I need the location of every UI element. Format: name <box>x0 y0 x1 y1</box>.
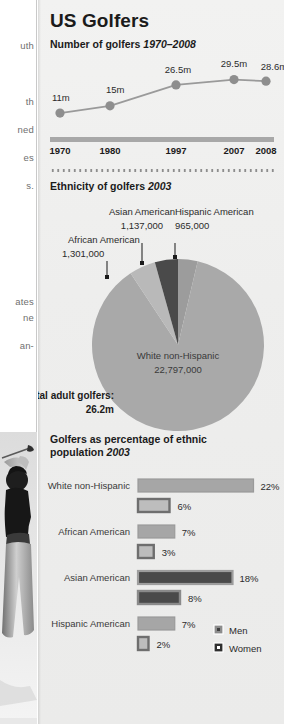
bar-category-label-african-american: African American <box>58 526 130 537</box>
line-chart-heading-bold: Number of golfers <box>50 38 140 50</box>
bar-men-value-hispanic-american: 7% <box>182 619 196 630</box>
golfer-swing-photo <box>0 432 37 724</box>
line-chart-heading-period: 1970–2008 <box>143 38 196 50</box>
bar-women-value-hispanic-american: 2% <box>157 639 171 650</box>
line-chart-svg: 11m15m26.5m29.5m28.6m 197019801997200720… <box>38 53 284 165</box>
line-chart-points <box>55 75 270 118</box>
bar-women-value-african-american: 3% <box>162 547 176 558</box>
line-chart-axis-bar <box>50 137 274 142</box>
bar-men-hispanic-american <box>138 617 175 630</box>
line-value-label-2007: 29.5m <box>221 58 247 69</box>
line-x-label-1970: 1970 <box>49 145 70 156</box>
bar-category-label-asian-american: Asian American <box>64 572 130 583</box>
line-chart-heading: Number of golfers 1970–2008 <box>38 32 284 51</box>
bar-category-label-white-non-hispanic: White non-Hispanic <box>48 480 131 491</box>
legend-swatch-inner-women <box>217 646 220 649</box>
pie-chart: Asian American 1,137,000 Hispanic Americ… <box>38 193 284 431</box>
bar-women-value-white-non-hispanic: 6% <box>178 501 192 512</box>
margin-text-fragment: ned <box>18 124 34 135</box>
margin-text-fragment: ne <box>23 312 34 323</box>
line-value-label-2008: 28.6m <box>261 61 284 72</box>
line-point-1997 <box>171 80 180 89</box>
bar-men-value-african-american: 7% <box>182 527 196 538</box>
leader-dot-asian <box>140 261 144 265</box>
bar-chart-svg: White non-Hispanic22%6%African American7… <box>38 459 284 667</box>
bar-women-hispanic-american <box>138 637 149 650</box>
line-chart-x-axis-labels: 19701980199720072008 <box>49 145 276 156</box>
margin-text-fragment: an- <box>20 340 34 351</box>
legend-swatch-inner-men <box>217 628 220 631</box>
line-value-label-1980: 15m <box>106 84 125 95</box>
line-chart-series <box>60 80 266 114</box>
bar-men-african-american <box>138 525 175 538</box>
margin-text-fragment: es <box>24 152 34 163</box>
margin-text-fragment: ates <box>15 296 34 307</box>
pie-label-asian-american: Asian American <box>109 206 175 217</box>
pie-chart-heading-period: 2003 <box>148 180 171 192</box>
line-x-label-1997: 1997 <box>165 145 186 156</box>
line-x-label-1980: 1980 <box>99 145 120 156</box>
pie-label-african-american: African American <box>68 234 140 245</box>
legend-label-women: Women <box>229 643 262 654</box>
pie-label-hispanic-american: Hispanic American <box>175 206 254 217</box>
pie-label-white-non-hispanic: White non-Hispanic <box>137 350 220 361</box>
bar-men-white-non-hispanic <box>138 479 254 492</box>
bar-men-value-asian-american: 18% <box>240 573 260 584</box>
pie-value-asian-american: 1,137,000 <box>121 220 163 231</box>
pie-chart-heading-bold: Ethnicity of golfers <box>50 180 145 192</box>
pie-chart-heading: Ethnicity of golfers 2003 <box>38 172 284 193</box>
line-value-label-1970: 11m <box>52 92 70 103</box>
pie-chart-svg: Asian American 1,137,000 Hispanic Americ… <box>38 193 284 431</box>
bar-chart: White non-Hispanic22%6%African American7… <box>38 459 284 667</box>
bar-category-label-hispanic-american: Hispanic American <box>51 618 130 629</box>
line-point-1980 <box>105 101 114 110</box>
bar-chart-heading: Golfers as percentage of ethnic populati… <box>38 431 236 459</box>
bar-women-value-asian-american: 8% <box>188 593 202 604</box>
line-x-label-2008: 2008 <box>255 145 276 156</box>
total-golfers-label-line1: Total adult golfers: <box>38 390 114 401</box>
line-point-2007 <box>229 75 238 84</box>
legend-label-men: Men <box>229 625 247 636</box>
leader-dot-hispanic <box>173 255 177 259</box>
margin-text-fragment: uth <box>20 40 34 51</box>
pie-value-african-american: 1,301,000 <box>62 248 104 259</box>
pie-slices <box>92 259 264 431</box>
total-golfers-value: 26.2m <box>86 404 114 415</box>
line-point-1970 <box>55 108 64 117</box>
bar-chart-legend: MenWomen <box>214 625 262 654</box>
bar-women-asian-american <box>138 591 180 604</box>
line-value-label-1997: 26.5m <box>165 64 191 75</box>
page-title: US Golfers <box>38 0 284 32</box>
pie-value-hispanic-american: 965,000 <box>175 220 209 231</box>
line-x-label-2007: 2007 <box>223 145 244 156</box>
line-point-2008 <box>261 77 270 86</box>
leader-dot-african <box>105 275 109 279</box>
bar-men-asian-american <box>138 571 233 584</box>
line-chart: 11m15m26.5m29.5m28.6m 197019801997200720… <box>38 53 284 165</box>
margin-text-fragment: s. <box>26 180 34 191</box>
infographic-panel: US Golfers Number of golfers 1970–2008 1… <box>38 0 284 724</box>
bar-women-african-american <box>138 545 154 558</box>
bar-men-value-white-non-hispanic: 22% <box>261 481 281 492</box>
pie-value-white-non-hispanic: 22,797,000 <box>154 364 202 375</box>
margin-text-fragment: th <box>26 96 34 107</box>
bar-women-white-non-hispanic <box>138 499 170 512</box>
bar-chart-heading-period: 2003 <box>107 446 130 458</box>
